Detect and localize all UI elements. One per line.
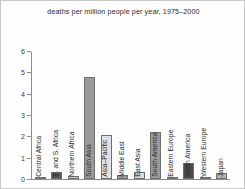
bar-slot: South America	[148, 51, 165, 179]
bar-slot: Japan	[214, 51, 231, 179]
y-axis-tick-mark	[27, 51, 31, 52]
bar[interactable]	[35, 177, 46, 179]
y-axis-tick-mark	[27, 179, 31, 180]
y-axis-tick-mark	[27, 72, 31, 73]
bar[interactable]	[51, 172, 62, 179]
y-axis-tick-mark	[27, 115, 31, 116]
bar[interactable]	[167, 177, 178, 179]
chart-frame: deaths per million people per year, 1975…	[0, 0, 245, 189]
bar[interactable]	[150, 132, 161, 179]
bar-category-label: Western Europe	[201, 128, 208, 177]
plot-area: 0123456 Central AfricaE. and S. AfricaNo…	[31, 51, 231, 180]
bar-category-label: Central Africa	[36, 136, 43, 177]
y-axis-tick-label: 0	[21, 176, 25, 183]
bar-slot: Western Europe	[197, 51, 214, 179]
bar-slot: Asia–Pacific	[98, 51, 115, 179]
y-axis-tick-mark	[27, 136, 31, 137]
bar-slot: E. and S. Africa	[49, 51, 66, 179]
bar-category-label: E. and S. Africa	[53, 130, 60, 177]
bar-slot: Eastern Europe	[164, 51, 181, 179]
chart-title: deaths per million people per year, 1975…	[1, 7, 245, 16]
bar[interactable]	[134, 172, 145, 179]
bar-slot: South Asia	[82, 51, 99, 179]
bar-category-label: Eastern Europe	[168, 130, 175, 177]
y-axis-tick-label: 5	[21, 69, 25, 76]
bar-slot: East Asia	[131, 51, 148, 179]
y-axis-tick-label: 4	[21, 90, 25, 97]
bar-category-label: Northern Africa	[69, 132, 76, 177]
bar[interactable]	[200, 177, 211, 179]
bar[interactable]	[117, 175, 128, 179]
bar-slot: Central Africa	[32, 51, 49, 179]
bar[interactable]	[183, 163, 194, 179]
bar[interactable]	[68, 176, 79, 179]
y-axis-tick-label: 2	[21, 133, 25, 140]
y-axis-tick-label: 1	[21, 154, 25, 161]
bar-category-label: Middle East	[119, 141, 126, 177]
bar[interactable]	[84, 77, 95, 179]
bar-series: Central AfricaE. and S. AfricaNorthern A…	[32, 51, 230, 179]
y-axis-tick-mark	[27, 158, 31, 159]
bar[interactable]	[101, 135, 112, 179]
x-axis-line	[31, 179, 230, 180]
bar-slot: Middle East	[115, 51, 132, 179]
bar-slot: Northern Africa	[65, 51, 82, 179]
y-axis-tick-label: 3	[21, 112, 25, 119]
bar-slot: North America	[181, 51, 198, 179]
bar[interactable]	[216, 173, 227, 179]
y-axis-tick-label: 6	[21, 48, 25, 55]
y-axis-tick-mark	[27, 94, 31, 95]
